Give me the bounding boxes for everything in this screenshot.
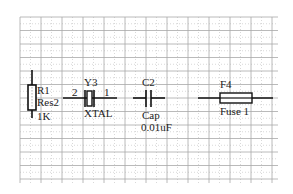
y3-comment: XTAL (84, 107, 113, 119)
c2-comment: Cap (142, 109, 160, 121)
y3-designator: Y3 (84, 76, 98, 88)
f4-comment: Fuse 1 (220, 105, 249, 117)
resistor-r1[interactable]: R1 Res2 1K (28, 70, 59, 122)
c2-value: 0.01uF (141, 121, 172, 133)
y3-pin-right: 1 (104, 86, 110, 98)
crystal-y3[interactable]: Y3 2 1 XTAL (63, 76, 117, 119)
c2-designator: C2 (142, 76, 155, 88)
f4-designator: F4 (220, 78, 232, 90)
r1-comment: Res2 (37, 96, 59, 108)
schematic-canvas[interactable]: R1 Res2 1K Y3 2 1 XTAL C2 Cap 0.01uF F4 … (0, 0, 293, 194)
r1-value: 1K (37, 110, 51, 122)
y3-pin-left: 2 (72, 86, 78, 98)
crystal-body-icon (87, 91, 92, 106)
r1-designator: R1 (37, 84, 50, 96)
